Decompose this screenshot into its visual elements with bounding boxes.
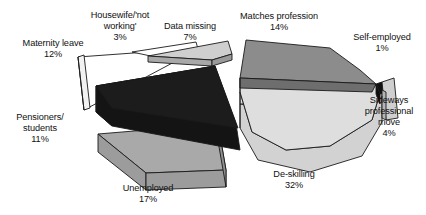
label-unemployed: Unemployed 17% xyxy=(108,183,188,205)
label-matches-profession: Matches profession 14% xyxy=(225,11,333,33)
label-maternity-leave: Maternity leave 12% xyxy=(4,38,102,60)
label-pensioners-students: Pensioners/ students 11% xyxy=(2,112,78,145)
label-sideways-professional-move: Sideways professional move 4% xyxy=(352,95,426,139)
label-data-missing: Data missing 7% xyxy=(151,21,229,43)
label-de-skilling: De-skilling 32% xyxy=(258,169,330,191)
pie-chart: Housewife/'not working' 3% Data missing … xyxy=(0,0,426,215)
label-self-employed: Self-employed 1% xyxy=(340,32,424,54)
